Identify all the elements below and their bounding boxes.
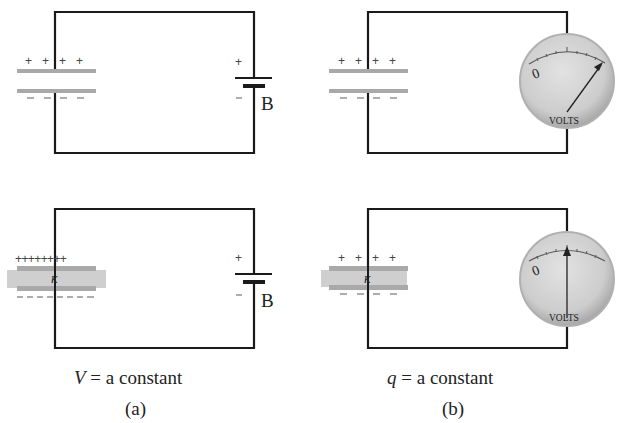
plus-charges: + — [76, 54, 83, 68]
battery-plus: + — [235, 251, 242, 265]
dielectric-label: κ — [51, 271, 58, 286]
capacitor-top-plate — [329, 69, 408, 73]
capacitor-dielectric-diagram: + + + + + B ++++++++ κ + B — [0, 0, 622, 423]
battery-label: B — [261, 93, 274, 114]
plus-charges: + — [59, 54, 66, 68]
meter-unit-label: VOLTS — [549, 313, 579, 323]
plus-charges: + — [355, 251, 362, 265]
wire — [55, 12, 254, 153]
plus-charges: + — [389, 251, 396, 265]
voltmeter: 0 VOLTS — [520, 34, 614, 128]
plus-charges: + — [42, 54, 49, 68]
battery-plus: + — [235, 55, 242, 69]
voltmeter: 0 VOLTS — [520, 232, 614, 326]
plus-charges: + — [338, 54, 345, 68]
panel-a-bottom-circuit: ++++++++ κ + B — [7, 209, 274, 348]
condition-variable: q — [387, 367, 397, 388]
condition-variable: V — [74, 367, 86, 388]
plus-charges: + — [372, 54, 379, 68]
plus-charges: + — [355, 54, 362, 68]
dielectric-label: κ — [364, 271, 371, 286]
panel-label-b: (b) — [442, 398, 464, 420]
caption-b-condition: q = a constant — [387, 367, 493, 389]
plus-charges: + — [372, 251, 379, 265]
meter-unit-label: VOLTS — [549, 116, 579, 126]
capacitor-bottom-plate — [329, 89, 408, 93]
condition-text: = a constant — [401, 367, 493, 388]
plus-charges: + — [389, 54, 396, 68]
condition-text: = a constant — [90, 367, 182, 388]
panel-label-a: (a) — [125, 398, 146, 420]
capacitor-bottom-plate — [17, 89, 96, 93]
caption-a-condition: V = a constant — [74, 367, 182, 389]
panel-b-top-circuit: + + + + 0 VOLTS — [329, 12, 614, 153]
plus-charges: + — [338, 251, 345, 265]
capacitor-top-plate — [17, 69, 96, 73]
panel-b-bottom-circuit: + + + + κ 0 VOLTS — [321, 209, 614, 348]
battery-label: B — [261, 290, 274, 311]
capacitor-bottom-plate — [17, 286, 96, 291]
panel-a-top-circuit: + + + + + B — [17, 12, 274, 153]
plus-charges: + — [25, 54, 32, 68]
plus-charges: ++++++++ — [15, 252, 67, 266]
